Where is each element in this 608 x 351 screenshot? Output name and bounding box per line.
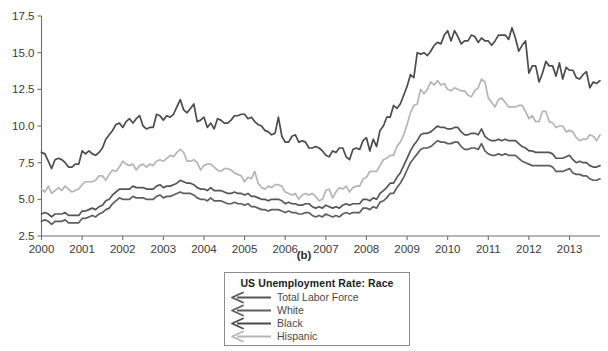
series-line-white xyxy=(42,141,601,225)
left-arrow-line-icon xyxy=(229,330,273,343)
y-tick-label: 12.5 xyxy=(12,83,34,95)
left-arrow-line-icon xyxy=(229,291,273,304)
x-tick-label: 2011 xyxy=(476,243,501,255)
y-tick-label: 2.5 xyxy=(19,230,35,242)
legend-entries: Total Labor ForceWhiteBlackHispanic xyxy=(225,291,409,343)
x-tick-label: 2012 xyxy=(516,243,542,255)
legend-label: Hispanic xyxy=(273,330,317,343)
series-line-total-labor-force xyxy=(42,126,601,217)
y-tick-label: 7.5 xyxy=(19,157,35,169)
x-tick-label: 2001 xyxy=(69,243,95,255)
legend-item[interactable]: Black xyxy=(225,317,409,330)
y-tick-label: 17.5 xyxy=(12,10,34,22)
legend-label: White xyxy=(273,304,304,317)
panel-label: (b) xyxy=(297,249,312,261)
legend-item[interactable]: Hispanic xyxy=(225,330,409,343)
x-tick-label: 2000 xyxy=(29,243,55,255)
legend-title: US Unemployment Rate: Race xyxy=(225,277,409,289)
left-arrow-line-icon xyxy=(229,304,273,317)
legend-label: Total Labor Force xyxy=(273,291,359,304)
y-tick-label: 15.0 xyxy=(12,47,34,59)
x-tick-label: 2002 xyxy=(110,243,136,255)
x-tick-label: 2005 xyxy=(232,243,258,255)
legend-item[interactable]: White xyxy=(225,304,409,317)
x-tick-label: 2006 xyxy=(272,243,298,255)
x-tick-label: 2007 xyxy=(313,243,339,255)
x-tick-label: 2009 xyxy=(394,243,420,255)
y-tick-label: 5.0 xyxy=(19,193,35,205)
series-line-hispanic xyxy=(42,79,601,201)
x-tick-label: 2010 xyxy=(435,243,461,255)
x-tick-label: 2008 xyxy=(354,243,380,255)
chart-legend: US Unemployment Rate: Race Total Labor F… xyxy=(224,272,410,346)
y-tick-label: 10.0 xyxy=(12,120,34,132)
x-tick-label: 2004 xyxy=(191,243,217,255)
x-tick-label: 2003 xyxy=(151,243,177,255)
legend-label: Black xyxy=(273,317,303,330)
legend-item[interactable]: Total Labor Force xyxy=(225,291,409,304)
y-axis-ticks: 2.55.07.510.012.515.017.5 xyxy=(12,10,41,242)
left-arrow-line-icon xyxy=(229,317,273,330)
chart-axes xyxy=(42,16,601,236)
x-tick-label: 2013 xyxy=(557,243,583,255)
series-line-black xyxy=(42,28,601,169)
